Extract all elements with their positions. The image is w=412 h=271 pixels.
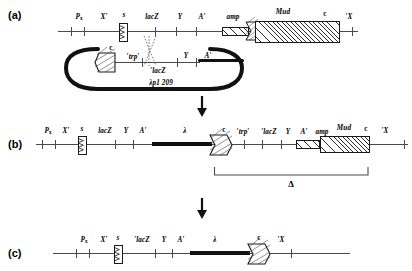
- tick: [115, 140, 116, 149]
- mud-box: [255, 21, 340, 43]
- tick: [177, 58, 178, 67]
- gene-label: ′lacZ: [134, 236, 150, 244]
- gene-label: s: [123, 11, 126, 19]
- gene-label: c: [109, 44, 112, 52]
- gene-label: Y: [162, 236, 167, 244]
- tick: [196, 27, 197, 36]
- gene-label: Mud: [276, 8, 290, 16]
- gene-label: X′: [100, 236, 107, 244]
- gene-label: amp: [226, 13, 239, 21]
- gene-label: c: [257, 234, 260, 242]
- flow-arrow-a-to-b: [196, 96, 208, 118]
- gene-label: c: [323, 10, 326, 18]
- gene-label: A′: [204, 52, 211, 60]
- mud-box: [320, 136, 370, 153]
- plasmid-linear-segment: [115, 62, 200, 63]
- gene-label: c: [222, 126, 225, 134]
- gene-label: X′: [62, 127, 69, 135]
- gene-label: lacZ: [145, 13, 159, 21]
- tick: [71, 27, 72, 36]
- tick: [352, 27, 353, 36]
- tick: [244, 140, 245, 149]
- amp-box: [222, 27, 249, 36]
- gene-label: A′: [300, 128, 307, 136]
- tick: [142, 58, 143, 67]
- gene-label: ′lacZ: [150, 67, 166, 75]
- gene-label: λ: [183, 127, 186, 135]
- gene-label: s: [117, 234, 120, 242]
- gene-label: ′X: [381, 127, 388, 135]
- amp-box: [296, 140, 320, 149]
- s-site-chevrons: [78, 136, 85, 153]
- tick: [155, 27, 156, 36]
- flow-arrow-b-to-c: [196, 198, 208, 220]
- tick: [172, 249, 173, 258]
- gene-label: Y: [124, 127, 129, 135]
- tick: [89, 249, 90, 258]
- gene-label: Px: [80, 236, 87, 244]
- gene-label: c: [364, 125, 367, 133]
- tick: [176, 27, 177, 36]
- prophage-c-arrow: [210, 135, 233, 155]
- gene-label: amp: [315, 128, 328, 136]
- tick: [281, 140, 282, 149]
- gene-label: X′: [100, 13, 107, 21]
- gene-label: Px: [44, 127, 51, 135]
- gene-label: ′lacZ: [261, 128, 277, 136]
- tick: [55, 140, 56, 149]
- lambda-segment: [190, 251, 250, 255]
- tick: [42, 140, 43, 149]
- gene-label: lacZ: [98, 127, 112, 135]
- gene-label: A′: [177, 236, 184, 244]
- tick: [291, 249, 292, 258]
- lambda-segment: [152, 142, 212, 146]
- genetic-map-figure: (a) Px X′ s lacZ Y A′ amp Mud c ′X: [0, 0, 412, 271]
- gene-label: ′trp′: [127, 53, 140, 61]
- plasmid-name-label: λp1 209: [149, 79, 173, 87]
- deletion-symbol: Δ: [288, 179, 294, 189]
- gene-label: Y: [178, 13, 183, 21]
- panel-label-b: (b): [8, 138, 22, 150]
- gene-label: Y: [286, 128, 291, 136]
- s-site-chevrons: [119, 23, 126, 40]
- panel-label-c: (c): [8, 247, 21, 259]
- prophage-c-arrow: [248, 244, 271, 264]
- tick: [76, 249, 77, 258]
- gene-label: s: [81, 125, 84, 133]
- tick: [84, 27, 85, 36]
- tick: [133, 140, 134, 149]
- tick: [404, 140, 405, 149]
- plasmid-c-arrow: [95, 53, 117, 72]
- tick: [155, 249, 156, 258]
- gene-label: Px: [75, 13, 82, 21]
- tick: [196, 58, 197, 67]
- gene-label: ′X: [277, 236, 284, 244]
- s-site-chevrons: [114, 245, 121, 262]
- gene-label: Y: [184, 52, 189, 60]
- gene-label: ′X: [345, 13, 352, 21]
- deletion-bracket: [214, 167, 369, 179]
- gene-label: λ: [213, 236, 216, 244]
- gene-label: A′: [139, 127, 146, 135]
- tick: [262, 140, 263, 149]
- panel-label-a: (a): [8, 9, 21, 21]
- gene-label: A′: [198, 13, 205, 21]
- gene-label: ′trp′: [237, 128, 250, 136]
- gene-label: Mud: [337, 124, 351, 132]
